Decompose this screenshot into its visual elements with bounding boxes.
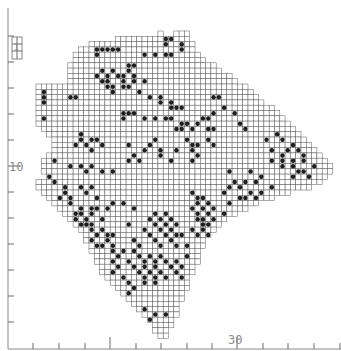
grid-square (153, 73, 158, 78)
record-dot (153, 53, 157, 57)
grid-square (269, 111, 274, 116)
grid-square (290, 137, 295, 142)
grid-square (306, 148, 311, 153)
grid-square (137, 201, 142, 206)
grid-square (126, 100, 131, 105)
grid-square (237, 111, 242, 116)
grid-square (89, 158, 94, 163)
record-dot (95, 233, 99, 237)
grid-square (84, 100, 89, 105)
record-dot (169, 100, 173, 104)
grid-square (211, 84, 216, 89)
grid-square (163, 148, 168, 153)
grid-square (328, 169, 333, 174)
grid-square (237, 100, 242, 105)
grid-square (184, 42, 189, 47)
grid-square (158, 89, 163, 94)
record-dot (180, 233, 184, 237)
grid-square (280, 121, 285, 126)
grid-square (163, 264, 168, 269)
grid-square (153, 68, 158, 73)
record-dot (148, 318, 152, 322)
grid-square (78, 89, 83, 94)
record-dot (190, 190, 194, 194)
grid-square (126, 89, 131, 94)
grid-square (158, 73, 163, 78)
record-dot (190, 143, 194, 147)
grid-square (248, 111, 253, 116)
record-dot (169, 106, 173, 110)
record-dot (174, 222, 178, 226)
record-dot (89, 137, 93, 141)
grid-square (163, 158, 168, 163)
grid-square (52, 164, 57, 169)
grid-square (312, 169, 317, 174)
grid-square (153, 89, 158, 94)
grid-square (206, 148, 211, 153)
grid-square (63, 206, 68, 211)
grid-square (200, 243, 205, 248)
grid-square (312, 179, 317, 184)
grid-square (206, 68, 211, 73)
grid-square (131, 169, 136, 174)
record-dot (153, 259, 157, 263)
grid-square (190, 47, 195, 52)
grid-square (57, 169, 62, 174)
grid-square (195, 95, 200, 100)
grid-square (232, 195, 237, 200)
grid-square (68, 190, 73, 195)
grid-square (264, 121, 269, 126)
grid-square (147, 291, 152, 296)
grid-square (137, 68, 142, 73)
grid-square (84, 116, 89, 121)
grid-square (147, 164, 152, 169)
grid-square (184, 285, 189, 290)
grid-square (216, 84, 221, 89)
grid-square (116, 169, 121, 174)
grid-square (227, 211, 232, 216)
grid-square (63, 100, 68, 105)
grid-square (169, 63, 174, 68)
grid-square (63, 132, 68, 137)
record-dot (148, 254, 152, 258)
grid-square (280, 132, 285, 137)
grid-square (78, 105, 83, 110)
grid-square (174, 95, 179, 100)
grid-square (200, 164, 205, 169)
grid-square (89, 105, 94, 110)
grid-square (174, 89, 179, 94)
grid-cells (36, 31, 333, 338)
grid-square (169, 312, 174, 317)
grid-square (100, 100, 105, 105)
grid-square (110, 42, 115, 47)
record-dot (127, 281, 131, 285)
grid-square (126, 132, 131, 137)
record-dot (89, 148, 93, 152)
record-dot (148, 270, 152, 274)
grid-square (163, 142, 168, 147)
grid-square (243, 169, 248, 174)
grid-square (36, 95, 41, 100)
grid-square (243, 185, 248, 190)
grid-square (195, 126, 200, 131)
grid-square (179, 238, 184, 243)
grid-square (227, 153, 232, 158)
grid-square (190, 211, 195, 216)
record-dot (185, 243, 189, 247)
grid-square (259, 148, 264, 153)
grid-square (211, 195, 216, 200)
grid-square (222, 116, 227, 121)
record-dot (164, 116, 168, 120)
grid-square (68, 84, 73, 89)
grid-square (206, 190, 211, 195)
grid-square (290, 179, 295, 184)
grid-square (147, 89, 152, 94)
grid-square (200, 100, 205, 105)
grid-square (94, 227, 99, 232)
grid-square (121, 105, 126, 110)
grid-square (259, 132, 264, 137)
grid-square (158, 174, 163, 179)
record-dot (190, 148, 194, 152)
grid-square (78, 195, 83, 200)
grid-square (243, 100, 248, 105)
